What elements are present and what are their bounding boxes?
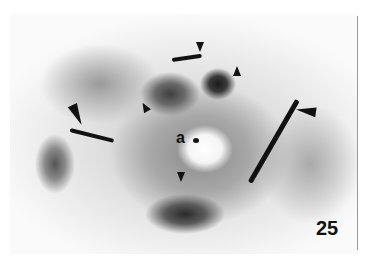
arrowhead-icon [177,172,185,182]
lumen-dot [193,138,199,143]
panel-number: 25 [316,218,338,238]
micrograph-figure: a 25 [0,0,373,261]
panel-border [357,16,358,250]
arrowhead-icon [233,66,241,76]
lumen-label: a [176,130,185,146]
arrowhead-icon [196,42,204,52]
